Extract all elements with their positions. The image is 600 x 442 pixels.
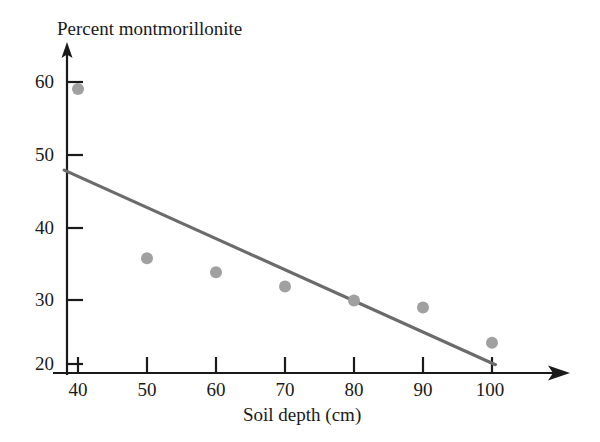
plot-canvas	[0, 0, 600, 442]
data-point	[141, 252, 153, 264]
data-point	[210, 266, 222, 278]
data-point	[417, 302, 429, 314]
x-tick-label-90: 90	[403, 379, 443, 401]
x-tick-label-100: 100	[470, 379, 510, 401]
x-tick-label-60: 60	[196, 379, 236, 401]
y-tick-label-40: 40	[20, 217, 54, 239]
data-point	[279, 280, 291, 292]
data-point-group	[72, 83, 498, 349]
data-point	[348, 295, 360, 307]
y-tick-label-60: 60	[20, 71, 54, 93]
x-tick-label-70: 70	[265, 379, 305, 401]
x-axis-title: Soil depth (cm)	[243, 404, 361, 426]
y-tick-marks	[67, 82, 83, 364]
y-tick-label-30: 30	[20, 289, 54, 311]
y-tick-label-50: 50	[20, 144, 54, 166]
y-tick-label-20: 20	[20, 353, 54, 375]
y-axis-title: Percent montmorillonite	[57, 18, 242, 40]
x-tick-label-40: 40	[58, 379, 98, 401]
x-tick-label-80: 80	[334, 379, 374, 401]
data-point	[72, 83, 84, 95]
data-point	[486, 337, 498, 349]
scatter-plot-figure: Percent montmorillonite Soil depth (cm) …	[0, 0, 600, 442]
regression-line	[64, 170, 495, 365]
x-tick-marks	[78, 357, 492, 373]
x-tick-label-50: 50	[127, 379, 167, 401]
